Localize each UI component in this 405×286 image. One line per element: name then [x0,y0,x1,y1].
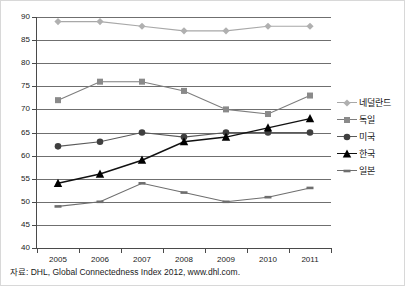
data-point [223,106,229,112]
legend-label: 네덜란드 [357,98,391,108]
data-point [181,88,187,94]
legend-marker-icon [337,114,357,126]
legend: 네덜란드독일미국한국일본 [337,94,403,179]
data-point [265,196,272,199]
legend-marker-icon [337,97,357,109]
legend-label: 한국 [357,149,375,159]
series-line [58,82,310,114]
data-point [54,18,61,25]
series-5 [55,182,314,208]
data-point [307,93,313,99]
legend-item-3[interactable]: 미국 [337,128,403,145]
data-point [139,182,146,185]
chart-figure: 4045505560657075808590 20052006200720082… [0,0,405,286]
data-point [307,187,314,190]
data-point [265,111,271,117]
data-point [180,27,187,34]
data-point [264,23,271,30]
data-point [96,18,103,25]
data-point [97,79,103,85]
data-point [306,114,314,122]
legend-item-1[interactable]: 네덜란드 [337,94,403,111]
source-note: 자료: DHL, Global Connectedness Index 2012… [10,267,240,277]
data-point [55,143,62,150]
series-4 [54,114,314,187]
legend-marker-icon [337,148,357,160]
data-point [222,27,229,34]
legend-label: 미국 [357,132,375,142]
data-point [139,129,146,136]
data-point [138,23,145,30]
data-point [181,191,188,194]
series-line [58,119,310,184]
legend-marker-icon [337,131,357,143]
series-2 [55,79,313,117]
data-point [55,205,62,208]
legend-label: 독일 [357,115,375,125]
legend-item-5[interactable]: 일본 [337,162,403,179]
series-line [58,183,310,206]
legend-label: 일본 [357,166,375,176]
data-point [97,201,104,204]
data-point [55,97,61,103]
data-point [97,138,104,145]
series-1 [54,18,313,34]
legend-marker-icon [337,165,357,177]
data-point [306,23,313,30]
legend-item-4[interactable]: 한국 [337,145,403,162]
data-point [139,79,145,85]
data-point [223,201,230,204]
data-point [307,129,314,136]
legend-item-2[interactable]: 독일 [337,111,403,128]
